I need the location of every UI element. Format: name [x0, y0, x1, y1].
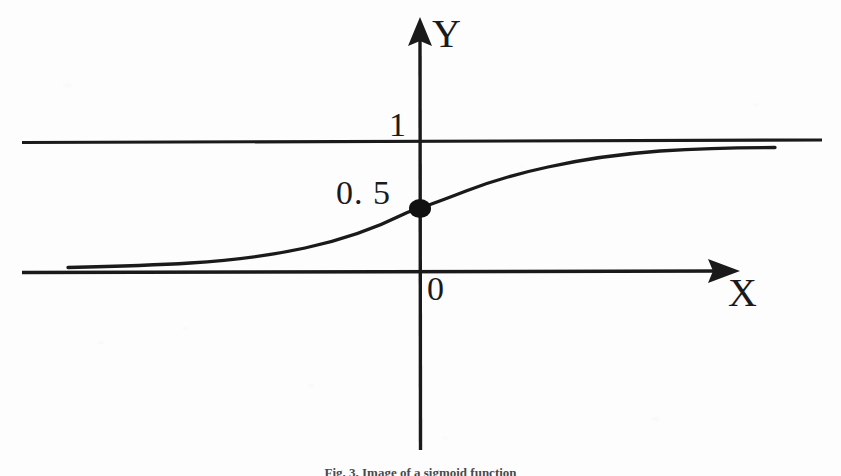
x-axis-line — [22, 271, 726, 273]
y-tick-label-one: 1 — [389, 108, 406, 142]
sigmoid-plot — [0, 0, 841, 476]
figure-caption: Fig. 3. Image of a sigmoid function — [0, 465, 841, 476]
y-axis-label: Y — [432, 14, 461, 54]
y-axis-line — [420, 38, 421, 450]
asymptote-line-y1 — [22, 140, 822, 143]
figure-container: Y X 0 1 0. 5 Fig. 3. Image of a sigmoid … — [0, 0, 841, 476]
inflection-point-marker — [409, 199, 431, 218]
y-tick-label-half: 0. 5 — [336, 176, 391, 210]
origin-label: 0 — [427, 272, 444, 306]
x-axis-label: X — [728, 273, 757, 313]
